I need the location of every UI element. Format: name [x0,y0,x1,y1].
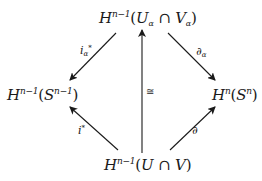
node-top-base: H [99,9,112,27]
node-left-a-exp: n−1 [54,86,72,96]
node-left-exp: n−1 [20,86,38,96]
label-top-left-sup: * [88,44,92,52]
node-left-a: S [44,86,54,104]
node-bottom-a: U [141,156,153,174]
node-bottom-op: ∩ [153,156,175,174]
node-right-close: ) [252,86,258,104]
node-left-base: H [7,86,20,104]
label-top-right-sub: α [202,51,207,59]
node-left: Hn−1(Sn−1) [7,88,78,103]
node-left-close: ) [73,86,79,104]
node-bottom-exp: n−1 [117,156,135,166]
node-right: Hn(Sn) [212,88,258,103]
node-bottom-b: V [175,156,186,174]
label-isomorphism: ≅ [146,87,154,97]
isomorphism-symbol: ≅ [146,86,154,97]
label-top-left: iα* [80,45,92,56]
node-right-a: S [236,86,246,104]
arrow-top-to-right [168,33,215,80]
label-top-right: ∂α [196,46,206,57]
node-top: Hn−1(Uα ∩ Vα) [99,11,197,26]
label-bottom-left-sup: * [82,124,86,132]
node-top-op: ∩ [154,9,176,27]
node-bottom-close: ) [186,156,192,174]
label-bottom-right-main: ∂ [192,124,198,137]
node-top-exp: n−1 [112,9,130,19]
node-bottom-base: H [104,156,117,174]
node-top-close: ) [191,9,197,27]
node-top-a: U [136,9,148,27]
node-right-base: H [212,86,225,104]
node-top-b: V [175,9,186,27]
arrow-top-to-left [70,33,116,80]
label-bottom-left: i* [78,125,85,136]
label-bottom-right: ∂ [192,125,198,136]
node-bottom: Hn−1(U ∩ V) [104,158,191,173]
